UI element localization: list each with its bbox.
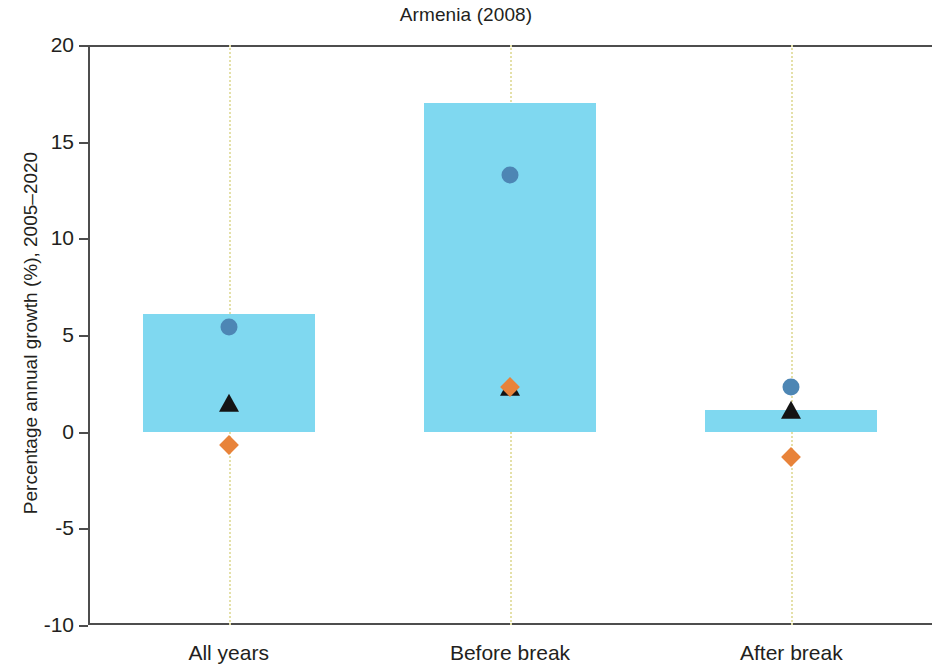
marker-triangle-all-years bbox=[219, 393, 239, 411]
y-tick-mark bbox=[79, 238, 88, 240]
y-tick-label: 5 bbox=[62, 323, 74, 347]
marker-diamond-after-break bbox=[781, 447, 801, 467]
y-tick-mark bbox=[79, 625, 88, 627]
y-tick-mark bbox=[79, 432, 88, 434]
marker-circle-before-break bbox=[502, 166, 519, 183]
chart-figure: Armenia (2008) Percentage annual growth … bbox=[0, 0, 932, 670]
y-tick-label: 0 bbox=[62, 419, 74, 443]
y-tick-mark bbox=[79, 335, 88, 337]
marker-triangle-after-break bbox=[781, 401, 801, 419]
y-tick-label: -10 bbox=[44, 613, 74, 637]
marker-circle-all-years bbox=[220, 319, 237, 336]
marker-circle-after-break bbox=[783, 379, 800, 396]
y-tick-mark bbox=[79, 142, 88, 144]
x-tick-label-all-years: All years bbox=[188, 641, 269, 665]
plot-area: 20151050-5-10 All yearsBefore breakAfter… bbox=[88, 45, 932, 625]
gridline-after-break bbox=[791, 45, 793, 625]
x-tick-label-after-break: After break bbox=[740, 641, 843, 665]
x-tick-label-before-break: Before break bbox=[450, 641, 570, 665]
marker-diamond-all-years bbox=[219, 435, 239, 455]
y-tick-label: 15 bbox=[51, 129, 74, 153]
y-axis-line bbox=[88, 45, 90, 625]
chart-title: Armenia (2008) bbox=[0, 4, 932, 26]
y-tick-mark bbox=[79, 45, 88, 47]
y-axis-title: Percentage annual growth (%), 2005–2020 bbox=[20, 43, 42, 623]
y-tick-mark bbox=[79, 528, 88, 530]
y-tick-label: 20 bbox=[51, 33, 74, 57]
y-tick-label: 10 bbox=[51, 226, 74, 250]
y-tick-label: -5 bbox=[55, 516, 74, 540]
